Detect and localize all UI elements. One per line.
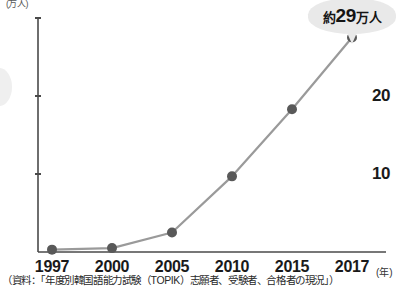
callout-annotation: 約29万人: [308, 0, 396, 34]
data-point-marker: [227, 171, 237, 181]
data-point-marker: [287, 104, 297, 114]
axis-lines: [38, 18, 386, 252]
source-note: （資料：「年度別韓国語能力試験（TOPIK）志願者、受験者、合格者の現況」）: [2, 272, 338, 287]
data-point-marker: [167, 228, 177, 238]
data-point-marker: [47, 245, 57, 255]
data-line: [52, 38, 352, 250]
callout-number: 29: [335, 5, 356, 26]
data-point-marker: [107, 243, 117, 253]
callout-suffix: 万人: [356, 10, 381, 25]
callout-prefix: 約: [323, 10, 336, 25]
callout-text: 約29万人: [323, 5, 382, 27]
data-markers: [47, 33, 357, 255]
